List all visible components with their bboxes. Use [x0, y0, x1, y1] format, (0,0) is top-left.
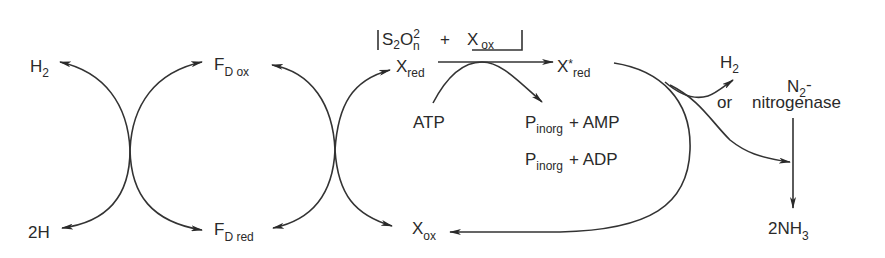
arrow-to-x-red — [335, 70, 390, 150]
fd-ox-label: FD ox — [214, 55, 249, 79]
atp-label: ATP — [413, 113, 445, 132]
fd-xred-crossing-arrows — [272, 65, 392, 228]
x-star-red-label: X*red — [557, 57, 590, 80]
arrow-to-2h — [62, 150, 130, 228]
arrow-to-x-ox — [335, 150, 392, 226]
arrow-back-to-fd-red — [273, 150, 335, 228]
nitrogenase-label: nitrogenase — [752, 93, 841, 112]
arrow-to-fd-red — [130, 150, 202, 230]
2nh3-label: 2NH3 — [768, 219, 809, 243]
boxed-reactants: S2O2n + Xox — [378, 27, 522, 53]
arrow-to-h2-left — [60, 62, 130, 150]
2h-label: 2H — [28, 223, 50, 242]
x-ox-label: Xox — [412, 219, 436, 243]
x-ox-boxed-label: Xox — [467, 30, 494, 52]
arrow-to-fd-ox — [130, 62, 202, 150]
plus-sign: + — [440, 30, 450, 49]
nitrogen-fixation-pathway-diagram: H2 2H FD ox FD red S2O2n + Xox Xred X*re… — [0, 0, 885, 258]
return-arrow-to-x-ox — [450, 63, 690, 232]
h2-left-label: H2 — [30, 57, 49, 80]
fd-red-label: FD red — [214, 220, 254, 244]
box-right-bracket — [472, 30, 522, 50]
x-red-label: Xred — [396, 57, 425, 80]
atp-hydrolysis-arc — [433, 62, 542, 103]
arrow-back-to-fd-ox — [272, 65, 335, 150]
h2-2h-crossing-arrows — [60, 62, 202, 230]
h2-right-label: H2 — [720, 53, 739, 76]
pinorg-amp-label: Pinorg+ AMP — [525, 113, 620, 136]
pinorg-adp-label: Pinorg+ ADP — [525, 150, 618, 173]
s2o-n-label: S2O2n — [382, 27, 420, 53]
or-label: or — [717, 93, 732, 112]
